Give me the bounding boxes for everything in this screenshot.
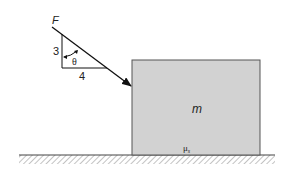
force-arrow [52, 27, 131, 86]
vertical-leg-label: 3 [53, 45, 59, 57]
angle-arrow-icon [63, 55, 67, 59]
force-label: F [52, 14, 60, 26]
mass-label: m [192, 102, 202, 116]
angle-label: θ [72, 56, 77, 67]
ground-hatching [19, 155, 275, 164]
force-diagram: F 3 4 θ m μs [0, 0, 287, 174]
horizontal-leg-label: 4 [79, 70, 85, 82]
